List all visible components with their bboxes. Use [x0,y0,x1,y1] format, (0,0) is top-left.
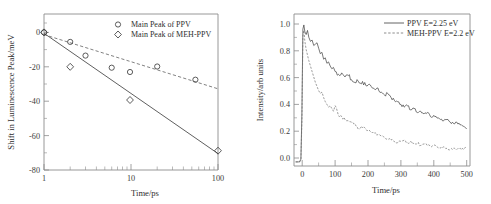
left-fit-line-ppv [44,35,218,89]
right-y-ticklabel-5: 1.0 [280,20,290,29]
right-y-ticklabel-2: 0.4 [280,100,290,109]
left-chart-svg: 0 -20 -40 -60 -80 [0,0,246,204]
left-legend: Main Peak of PPV Main Peak of MEH-PPV [115,20,212,39]
right-x-ticklabels: 0 100 200 300 400 500 [300,170,473,179]
left-y-ticklabels: 0 -20 -40 -60 -80 [29,28,40,175]
right-curve-meh-ppv [296,30,467,161]
left-y-axis-ticks [44,23,49,170]
left-y-ticklabel-2: -40 [29,97,40,106]
right-x-ticklabel-2: 200 [362,170,374,179]
legend-marker-diamond-icon [115,31,122,38]
figure-container: 0 -20 -40 -60 -80 [0,0,491,204]
right-x-axis-title: Time/ps [372,185,401,195]
left-x-axis-title: Time/ps [131,188,160,198]
left-x-axis-ticks [44,164,218,170]
chart-panel-left: 0 -20 -40 -60 -80 [0,0,246,204]
left-y-ticklabel-3: -60 [29,132,40,141]
left-y-ticklabel-0: 0 [36,28,40,37]
left-x-ticklabel-2: 100 [212,174,224,183]
left-series-meh-ppv-markers [41,29,222,154]
right-y-axis-title: Intensity/arb units [255,58,265,121]
right-curve-ppv [296,25,467,162]
right-y-ticklabels: 0.0 0.2 0.4 0.6 0.8 1.0 [280,20,290,163]
right-chart-svg: 0.0 0.2 0.4 0.6 0.8 1.0 [246,0,491,204]
right-x-ticklabel-5: 500 [461,170,473,179]
left-legend-label-ppv: Main Peak of PPV [131,20,191,29]
right-x-ticklabel-0: 0 [300,170,304,179]
left-fit-line-meh-ppv [44,33,218,153]
right-legend: PPV E=2.25 eV MEH-PPV E=2.2 eV [384,19,475,38]
left-y-ticklabel-4: -80 [29,166,40,175]
right-y-ticklabel-0: 0.0 [280,154,290,163]
left-legend-label-meh-ppv: Main Peak of MEH-PPV [131,30,211,39]
right-legend-label-meh-ppv: MEH-PPV E=2.2 eV [407,29,475,38]
right-x-ticklabel-1: 100 [329,170,341,179]
left-y-ticklabel-1: -20 [29,63,40,72]
right-legend-label-ppv: PPV E=2.25 eV [407,19,458,28]
right-y-axis-ticks [294,24,299,158]
right-y-ticklabel-4: 0.8 [280,47,290,56]
right-y-ticklabel-1: 0.2 [280,127,290,136]
right-x-ticklabel-4: 400 [428,170,440,179]
right-x-axis-ticks [302,160,467,166]
left-x-ticklabels: 1 10 100 [42,174,224,183]
chart-panel-right: 0.0 0.2 0.4 0.6 0.8 1.0 [246,0,491,204]
left-y-axis-title: Shift in Luminescence Peak/meV [6,34,16,150]
left-x-ticklabel-0: 1 [42,174,46,183]
left-x-ticklabel-1: 10 [127,174,135,183]
legend-marker-circle-icon [115,22,120,27]
right-y-ticklabel-3: 0.6 [280,74,290,83]
right-x-ticklabel-3: 300 [395,170,407,179]
